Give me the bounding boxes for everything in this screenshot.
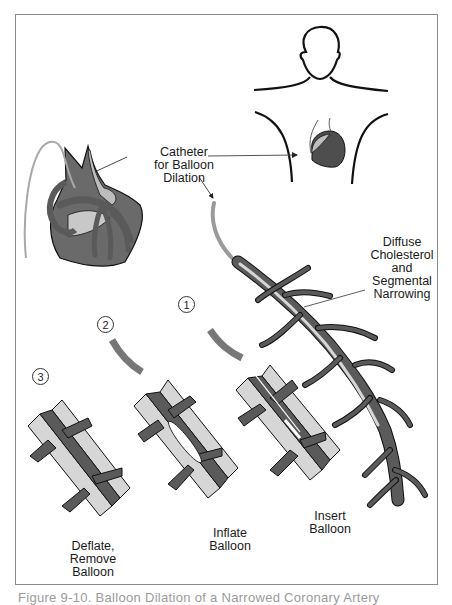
catheter-label: Catheter for Balloon Dilation: [138, 146, 230, 185]
step-2-label: Inflate Balloon: [195, 527, 265, 553]
narrowing-label: Diffuse Cholesterol and Segmental Narrow…: [362, 236, 442, 301]
step-number-2: 2: [97, 316, 114, 333]
step-3-label: Deflate, Remove Balloon: [58, 540, 128, 579]
vessel-step-2-icon: [112, 340, 238, 498]
catheter-segment-icon: [213, 203, 232, 258]
step-1-label: Insert Balloon: [295, 510, 365, 536]
step-number-1: 1: [178, 296, 195, 313]
vessel-step-3-icon: [28, 400, 130, 516]
figure-caption: Figure 9-10. Balloon Dilation of a Narro…: [18, 590, 380, 605]
step-number-3: 3: [32, 368, 49, 385]
heart-illustration-icon: [25, 142, 143, 266]
torso-heart-icon: [310, 118, 345, 167]
